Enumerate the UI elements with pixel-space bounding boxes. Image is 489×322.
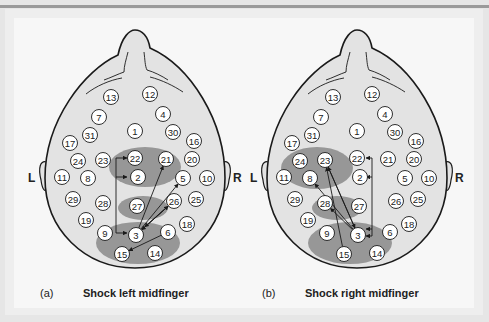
electrode-7: 7: [314, 110, 329, 125]
svg-text:9: 9: [324, 228, 329, 239]
electrode-11: 11: [55, 170, 70, 185]
svg-text:9: 9: [102, 228, 107, 239]
svg-text:29: 29: [68, 194, 79, 205]
electrode-19: 19: [79, 213, 94, 228]
electrode-8: 8: [81, 171, 96, 186]
panel-a-caption: Shock left midfinger: [83, 287, 189, 299]
svg-text:21: 21: [161, 154, 172, 165]
electrode-21: 21: [381, 152, 396, 167]
electrode-1: 1: [128, 124, 143, 139]
electrode-2: 2: [131, 170, 146, 185]
electrode-2: 2: [353, 170, 368, 185]
electrode-25: 25: [189, 192, 204, 207]
electrode-13: 13: [326, 90, 341, 105]
electrode-12: 12: [365, 87, 380, 102]
activation-region: [281, 147, 353, 189]
panel-a-shock-left: LR13127413130171624232221201182510292827…: [28, 30, 242, 268]
svg-text:24: 24: [295, 156, 306, 167]
electrode-9: 9: [320, 226, 335, 241]
panel-a-label: (a): [40, 287, 53, 299]
svg-text:19: 19: [303, 215, 314, 226]
svg-text:6: 6: [387, 227, 392, 238]
electrode-31: 31: [305, 128, 320, 143]
svg-text:28: 28: [320, 198, 331, 209]
electrode-23: 23: [318, 153, 333, 168]
electrode-20: 20: [407, 152, 422, 167]
electrode-10: 10: [422, 171, 437, 186]
electrode-17: 17: [63, 136, 78, 151]
electrode-24: 24: [71, 154, 86, 169]
svg-text:11: 11: [57, 172, 67, 183]
svg-text:25: 25: [191, 194, 202, 205]
electrode-19: 19: [301, 213, 316, 228]
svg-text:30: 30: [390, 127, 401, 138]
svg-text:15: 15: [339, 249, 350, 260]
electrode-4: 4: [378, 107, 393, 122]
electrode-3: 3: [129, 228, 144, 243]
electrode-3: 3: [351, 228, 366, 243]
svg-text:30: 30: [168, 127, 179, 138]
svg-text:2: 2: [135, 172, 140, 183]
panel-b-shock-right: LR13127413130171624232221201182510292827…: [250, 30, 464, 268]
electrode-5: 5: [398, 171, 413, 186]
electrode-16: 16: [187, 134, 202, 149]
svg-text:19: 19: [81, 215, 92, 226]
electrode-16: 16: [409, 134, 424, 149]
svg-text:5: 5: [402, 173, 407, 184]
electrode-18: 18: [180, 217, 195, 232]
svg-text:15: 15: [117, 249, 128, 260]
svg-text:22: 22: [130, 153, 141, 164]
electrode-15: 15: [115, 247, 130, 262]
svg-text:25: 25: [413, 194, 424, 205]
electrode-26: 26: [167, 194, 182, 209]
svg-text:21: 21: [383, 154, 394, 165]
svg-text:28: 28: [98, 198, 109, 209]
electrode-11: 11: [277, 170, 292, 185]
svg-text:3: 3: [133, 230, 138, 241]
svg-text:6: 6: [165, 227, 170, 238]
electrode-30: 30: [388, 125, 403, 140]
electrode-22: 22: [350, 151, 365, 166]
svg-text:12: 12: [145, 89, 156, 100]
electrode-21: 21: [159, 152, 174, 167]
svg-text:3: 3: [355, 230, 360, 241]
svg-text:16: 16: [189, 136, 200, 147]
svg-text:23: 23: [98, 155, 109, 166]
electrode-9: 9: [98, 226, 113, 241]
svg-text:11: 11: [279, 172, 289, 183]
svg-text:14: 14: [372, 248, 383, 259]
electrode-15: 15: [337, 247, 352, 262]
electrode-27: 27: [352, 199, 367, 214]
electrode-7: 7: [92, 110, 107, 125]
electrode-1: 1: [350, 124, 365, 139]
svg-text:10: 10: [424, 173, 435, 184]
electrode-25: 25: [411, 192, 426, 207]
electrode-29: 29: [66, 192, 81, 207]
panel-b-caption: Shock right midfinger: [305, 287, 419, 299]
left-side-label: L: [28, 171, 35, 185]
electrode-10: 10: [200, 171, 215, 186]
svg-text:24: 24: [73, 156, 84, 167]
electrode-8: 8: [303, 171, 318, 186]
electrode-24: 24: [293, 154, 308, 169]
svg-text:22: 22: [352, 153, 363, 164]
svg-text:31: 31: [85, 130, 96, 141]
svg-text:20: 20: [187, 154, 198, 165]
svg-text:1: 1: [354, 126, 359, 137]
electrode-14: 14: [148, 246, 163, 261]
svg-text:5: 5: [180, 173, 185, 184]
svg-text:8: 8: [307, 173, 312, 184]
electrode-5: 5: [176, 171, 191, 186]
electrode-18: 18: [402, 217, 417, 232]
svg-text:8: 8: [85, 173, 90, 184]
electrode-20: 20: [185, 152, 200, 167]
eeg-figure: LR13127413130171624232221201182510292827…: [0, 0, 489, 322]
svg-text:13: 13: [328, 92, 339, 103]
electrode-29: 29: [288, 192, 303, 207]
electrode-28: 28: [318, 196, 333, 211]
svg-text:10: 10: [202, 173, 213, 184]
electrode-30: 30: [166, 125, 181, 140]
svg-text:14: 14: [150, 248, 161, 259]
electrode-27: 27: [130, 199, 145, 214]
electrode-31: 31: [83, 128, 98, 143]
